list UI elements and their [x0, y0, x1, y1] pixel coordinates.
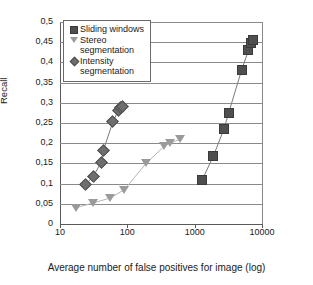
y-axis-title: Recall [0, 78, 9, 104]
data-point-square [224, 108, 234, 118]
diamond-marker-icon [68, 56, 80, 65]
data-point-triangle [88, 199, 98, 207]
data-point-triangle [175, 135, 185, 143]
y-axis-tick-label: 0,35 [35, 78, 53, 87]
chart-figure: Recall 00,050,10,150,20,250,30,350,40,45… [0, 0, 313, 285]
data-point-triangle [119, 186, 129, 194]
legend-item-label: Intensity segmentation [80, 56, 146, 76]
square-marker-icon [68, 24, 80, 34]
data-point-triangle [105, 194, 115, 202]
data-point-square [248, 35, 258, 45]
triangle-marker-icon [68, 35, 80, 43]
x-axis-line [60, 224, 263, 225]
y-axis-tick-label: 0,1 [40, 179, 53, 188]
data-point-triangle [165, 139, 175, 147]
plot-right-border [262, 22, 263, 225]
data-point-triangle [71, 204, 81, 212]
legend-item: Stereo segmentation [68, 35, 146, 55]
data-point-square [208, 151, 218, 161]
legend-item-label: Stereo segmentation [80, 35, 146, 55]
y-axis-tick-label: 0,5 [40, 17, 53, 26]
y-axis-tick-label: 0,15 [35, 158, 53, 167]
y-axis-tick-label: 0,25 [35, 118, 53, 127]
x-axis-tick-label: 10000 [242, 227, 282, 237]
data-point-square [219, 124, 229, 134]
x-axis-tick-label: 10 [40, 227, 80, 237]
x-axis-tick-label: 100 [107, 227, 147, 237]
legend-item: Sliding windows [68, 24, 146, 34]
y-axis-tick-label: 0,2 [40, 138, 53, 147]
y-axis-tick-label: 0,3 [40, 98, 53, 107]
legend-item: Intensity segmentation [68, 56, 146, 76]
y-axis-tick-label: 0,45 [35, 37, 53, 46]
y-axis-tick-label: 0,05 [35, 199, 53, 208]
x-axis-title: Average number of false positives for im… [0, 262, 313, 273]
chart-legend: Sliding windowsStereo segmentationIntens… [63, 20, 151, 82]
y-axis-tick-label: 0,4 [40, 57, 53, 66]
data-point-square [197, 175, 207, 185]
data-point-square [237, 65, 247, 75]
x-axis-tick-label: 1000 [175, 227, 215, 237]
legend-item-label: Sliding windows [80, 24, 144, 34]
data-point-triangle [141, 159, 151, 167]
